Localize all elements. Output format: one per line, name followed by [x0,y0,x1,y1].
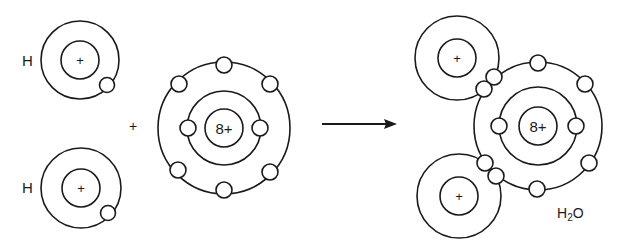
shared-electron [488,168,504,184]
electron [216,57,232,73]
electron [100,78,115,93]
hydrogen-atom-1: H + [22,21,119,99]
electron [252,120,268,136]
nucleus-charge: + [453,51,461,66]
hydrogen-label-1: H [22,52,33,69]
electron [180,120,196,136]
electron [581,155,597,171]
electron [216,182,232,198]
electron [262,164,278,180]
electron [568,118,584,134]
electron [171,76,187,92]
electron [577,76,593,92]
nucleus-charge: + [455,189,463,204]
electron [170,162,186,178]
electron [491,118,507,134]
oxygen-atom: 8+ [158,57,290,198]
water-formation-diagram: H + H + + 8+ 8+ [0,0,627,248]
electron [262,76,278,92]
plus-sign: + [129,118,137,134]
water-formula: H2O [557,205,584,223]
electron [530,55,546,71]
shared-electron [477,155,493,171]
hydrogen-atom-2: H + [22,148,121,228]
electron [101,206,116,221]
nucleus-charge: 8+ [215,120,232,137]
shared-electron [476,81,492,97]
electron [529,181,545,197]
nucleus-charge: + [76,53,84,68]
nucleus-charge: + [77,181,85,196]
hydrogen-label-2: H [22,179,33,196]
nucleus-charge: 8+ [529,118,546,135]
water-molecule: 8+ + + H2O [415,16,602,238]
reaction-arrow [322,119,397,129]
